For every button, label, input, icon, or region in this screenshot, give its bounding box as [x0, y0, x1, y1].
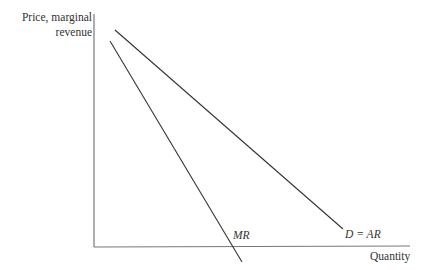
y-axis-label-line2: revenue	[56, 26, 92, 39]
mr-label: MR	[233, 229, 250, 242]
marginal-revenue-curve	[110, 41, 242, 262]
demand-label: D = AR	[345, 228, 381, 241]
demand-curve	[115, 30, 343, 229]
x-axis-label: Quantity	[370, 250, 410, 263]
y-axis-label-line1: Price, marginal	[22, 11, 92, 24]
x-axis	[94, 246, 410, 247]
